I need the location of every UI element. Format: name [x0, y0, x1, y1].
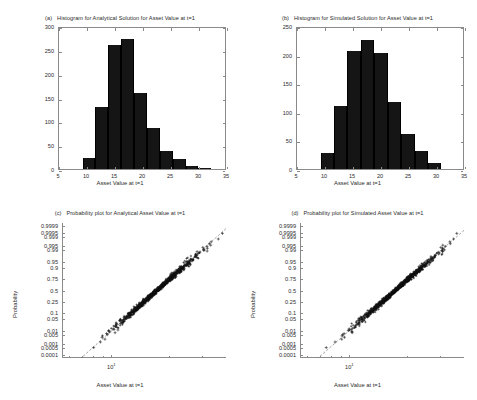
x-tick-major — [111, 355, 112, 358]
x-tick-minor — [202, 356, 203, 358]
x-tick-top — [325, 28, 326, 31]
x-tick — [171, 167, 172, 170]
y-tick-label: 0.9995 — [260, 230, 296, 236]
y-tick — [300, 319, 303, 320]
y-tick-label: 0.01 — [22, 328, 58, 334]
y-tick-right — [461, 114, 464, 115]
histogram-bar — [173, 159, 186, 169]
x-tick-minor — [407, 356, 408, 358]
y-tick — [59, 171, 62, 172]
y-tick-right — [223, 100, 226, 101]
y-tick — [59, 123, 62, 124]
y-tick — [62, 348, 65, 349]
y-tick-label: 0.05 — [22, 316, 58, 322]
y-tick-label: 0.0001 — [22, 352, 58, 358]
panel-a-xlabel: Asset Value at t=1 — [0, 180, 240, 186]
y-tick-label: 0 — [26, 167, 54, 173]
y-tick — [300, 355, 303, 356]
y-tick-label: 150 — [26, 96, 54, 102]
matlab-figure-2x2: (a)Histogram for Analytical Solution for… — [0, 0, 477, 400]
x-tick-label: 35 — [223, 173, 229, 179]
y-tick — [300, 233, 303, 234]
x-tick-label: 25 — [405, 173, 411, 179]
y-tick — [300, 226, 303, 227]
x-tick — [353, 167, 354, 170]
y-tick-right — [223, 76, 226, 77]
y-tick — [62, 331, 65, 332]
panel-c-probplot-analytical: (c)Probability plot for Analytical Asset… — [0, 196, 240, 400]
x-tick-label: 101 — [345, 362, 354, 370]
x-tick-minor — [93, 356, 94, 358]
panel-c-title-text: Probability plot for Analytical Asset Va… — [66, 210, 185, 216]
y-tick-label: 50 — [26, 143, 54, 149]
y-tick — [297, 28, 300, 29]
y-tick-label: 50 — [264, 138, 292, 144]
y-tick — [62, 319, 65, 320]
y-tick — [300, 302, 303, 303]
x-tick-label: 15 — [111, 173, 117, 179]
x-tick-minor — [169, 356, 170, 358]
y-tick-label: 300 — [26, 24, 54, 30]
x-tick — [409, 167, 410, 170]
panel-d-tag: (d) — [291, 210, 298, 216]
y-tick-label: 0.75 — [260, 276, 296, 282]
y-tick — [62, 268, 65, 269]
y-tick — [59, 28, 62, 29]
panel-c-title: (c)Probability plot for Analytical Asset… — [0, 210, 240, 216]
panel-b-title: (b)Histogram for Simulated Solution for … — [238, 15, 477, 21]
histogram-bar — [134, 93, 147, 169]
y-tick-label: 250 — [264, 24, 292, 30]
y-tick — [297, 114, 300, 115]
y-tick — [300, 331, 303, 332]
y-tick-label: 0.01 — [260, 328, 296, 334]
data-point-markers — [92, 232, 224, 349]
x-tick — [115, 167, 116, 170]
panel-c-xlabel: Asset Value at t=1 — [0, 382, 240, 388]
y-tick-label: 0.001 — [260, 341, 296, 347]
y-tick — [62, 355, 65, 356]
x-tick-label: 35 — [461, 173, 467, 179]
x-tick-top — [381, 28, 382, 31]
panel-b-title-text: Histogram for Simulated Solution for Ass… — [294, 15, 433, 21]
x-tick-minor — [320, 356, 321, 358]
x-tick — [227, 167, 228, 170]
x-tick-minor — [82, 356, 83, 358]
histogram-bar — [415, 151, 428, 169]
y-tick — [62, 335, 65, 336]
panel-a-title: (a)Histogram for Analytical Solution for… — [0, 15, 240, 21]
panel-a-histogram-analytical: (a)Histogram for Analytical Solution for… — [0, 0, 240, 200]
y-tick — [300, 268, 303, 269]
panel-d-title-text: Probability plot for Simulated Asset Val… — [303, 210, 423, 216]
y-tick-right — [461, 142, 464, 143]
y-tick — [300, 237, 303, 238]
y-tick-right — [461, 57, 464, 58]
x-tick-major — [349, 355, 350, 358]
y-tick-right — [461, 85, 464, 86]
histogram-bar — [388, 102, 401, 169]
probability-plot-canvas — [300, 223, 464, 358]
panel-d-xlabel: Asset Value at t=1 — [238, 382, 477, 388]
x-tick-label: 10 — [83, 173, 89, 179]
y-tick-right — [223, 147, 226, 148]
y-tick — [300, 279, 303, 280]
x-tick — [325, 167, 326, 170]
x-tick — [199, 167, 200, 170]
x-tick-top — [227, 28, 228, 31]
y-tick-label: 0.9995 — [22, 230, 58, 236]
x-tick-top — [353, 28, 354, 31]
y-tick — [297, 85, 300, 86]
x-tick-top — [199, 28, 200, 31]
y-tick — [300, 348, 303, 349]
y-tick — [62, 246, 65, 247]
histogram-bar — [198, 168, 211, 169]
x-tick-top — [437, 28, 438, 31]
y-tick — [300, 262, 303, 263]
histogram-bar — [321, 153, 334, 169]
y-tick — [62, 291, 65, 292]
y-tick — [297, 171, 300, 172]
y-tick — [59, 52, 62, 53]
y-tick — [300, 335, 303, 336]
histogram-bar — [121, 39, 134, 169]
y-tick — [300, 313, 303, 314]
y-tick — [300, 246, 303, 247]
